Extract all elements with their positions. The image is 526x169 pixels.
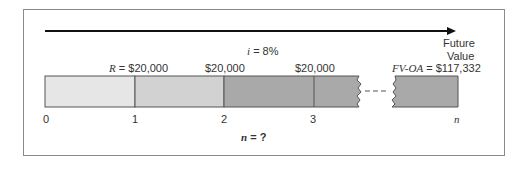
arrow-head-icon — [447, 27, 456, 35]
period-n-segment — [392, 76, 458, 107]
period-3-label: 3 — [310, 113, 316, 125]
future-label: Future — [443, 37, 475, 49]
period-2-label: 2 — [221, 113, 227, 125]
period-0-label: 0 — [43, 113, 49, 125]
period-3-segment — [224, 76, 361, 107]
timeline-diagram — [0, 0, 526, 169]
value-label: Value — [447, 50, 474, 62]
period-1-segment — [45, 76, 135, 107]
interest-rate-label: i = 8% — [247, 45, 279, 57]
payment-label-2: $20,000 — [205, 62, 245, 74]
payment-label-3: $20,000 — [295, 62, 335, 74]
unknown-n-label: n = ? — [241, 131, 266, 143]
period-1-label: 1 — [132, 113, 138, 125]
period-2-segment — [135, 76, 224, 107]
future-value-amount: FV-OA = $117,332 — [392, 62, 481, 74]
period-n-label: n — [454, 113, 460, 125]
payment-label-1: R = $20,000 — [109, 62, 168, 74]
